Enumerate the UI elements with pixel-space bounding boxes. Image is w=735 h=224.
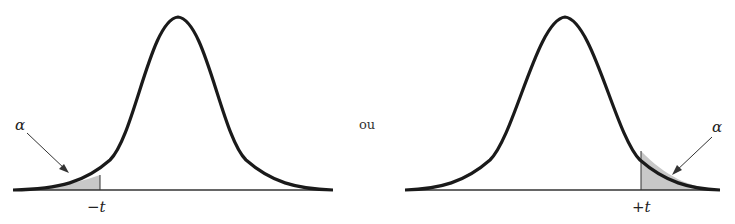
- separator-text: ou: [359, 117, 375, 132]
- left-bell-curve: [13, 17, 333, 190]
- right-distribution: [405, 17, 720, 190]
- right-alpha-arrow: [675, 137, 712, 172]
- left-alpha-label: α: [15, 116, 25, 134]
- right-bell-curve: [405, 17, 720, 190]
- right-t-label: +t: [632, 198, 651, 216]
- left-t-label: −t: [87, 198, 106, 216]
- diagram-canvas: [0, 0, 735, 224]
- left-distribution: [13, 17, 333, 190]
- right-alpha-label: α: [712, 118, 722, 136]
- left-alpha-arrow: [27, 133, 66, 170]
